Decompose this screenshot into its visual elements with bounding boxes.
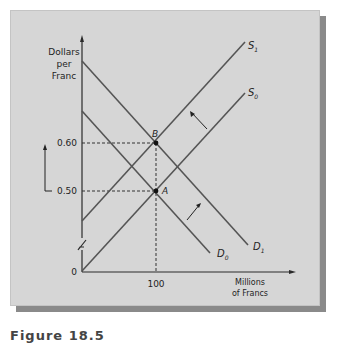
y-axis-label-3: Franc — [52, 71, 76, 81]
tick-label-060: 0.60 — [57, 138, 77, 148]
tick-label-0: 0 — [71, 267, 77, 277]
axes — [78, 40, 290, 272]
curve-s0 — [82, 93, 245, 271]
x-axis-label-1: Millions — [235, 278, 265, 287]
curve-d0-label: D0 — [217, 248, 229, 261]
figure-caption: Figure 18.5 — [10, 328, 105, 342]
shift-arrows — [45, 112, 207, 220]
point-b-label: B — [152, 129, 158, 139]
curve-s1-label: S1 — [248, 40, 258, 53]
guide-lines — [82, 143, 156, 272]
curve-d1-label: D1 — [253, 241, 265, 254]
point-a-marker — [154, 189, 159, 194]
y-axis-label-1: Dollars — [48, 47, 80, 57]
point-b-marker — [154, 141, 159, 146]
curve-d1 — [82, 61, 248, 245]
point-a-label: A — [161, 186, 168, 196]
y-axis-label-2: per — [57, 59, 72, 69]
y-axis-arrow-icon — [80, 35, 84, 42]
tick-label-050: 0.50 — [57, 186, 77, 196]
tick-label-100: 100 — [147, 279, 164, 289]
x-axis-arrow-icon — [289, 270, 296, 274]
price-rise-arrow — [45, 148, 52, 191]
axis-break-icon — [78, 240, 86, 250]
x-axis-label-2: of Francs — [232, 289, 268, 298]
curves — [82, 42, 248, 271]
curve-s0-label: S0 — [248, 87, 258, 100]
price-rise-arrowhead-icon — [43, 144, 47, 150]
